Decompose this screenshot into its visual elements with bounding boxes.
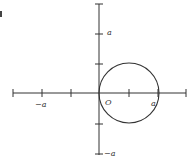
label-origin: O [105,99,112,107]
axes-and-circle [0,0,191,159]
label-x-pos-a: a [151,100,156,108]
label-y-neg-a: −a [104,150,115,158]
label-x-neg-a: −a [35,101,46,109]
diagram-canvas: a −a O a −a [0,0,191,159]
label-y-pos-a: a [107,29,112,37]
